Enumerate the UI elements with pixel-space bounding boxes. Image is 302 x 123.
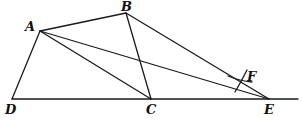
point-label-a: A [25, 20, 35, 33]
point-label-f: F [247, 70, 256, 83]
point-label-e: E [264, 103, 274, 116]
geometry-diagram: A B C D E F [0, 0, 302, 123]
point-label-d: D [5, 103, 16, 116]
point-label-c: C [146, 103, 156, 116]
segment-a-d [12, 31, 40, 99]
segment-a-e [40, 31, 269, 99]
point-label-b: B [121, 0, 132, 13]
segment-a-b [40, 13, 126, 31]
